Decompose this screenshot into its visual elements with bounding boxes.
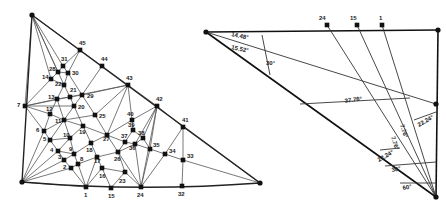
mesh-node-label: 45 <box>79 40 86 46</box>
angle-label: 37.76° <box>344 96 363 104</box>
mesh-node-label: 21 <box>70 87 77 93</box>
top-edge <box>206 30 438 32</box>
mesh-node <box>62 158 67 163</box>
mesh-edges <box>22 15 260 188</box>
mesh-node-label: 5 <box>43 136 47 142</box>
mesh-node-label: 13 <box>48 94 55 100</box>
mesh-edge <box>135 144 141 187</box>
mesh-node <box>62 118 67 123</box>
mesh-node <box>68 95 73 100</box>
mesh-node <box>84 185 89 190</box>
mesh-node <box>61 64 66 69</box>
angle-vertex-node <box>433 101 438 106</box>
mesh-node <box>116 150 121 155</box>
mesh-node <box>131 128 136 133</box>
mesh-node <box>55 97 60 102</box>
mesh-node-label: 20 <box>78 104 85 110</box>
mesh-node <box>42 129 47 134</box>
mesh-node-label: 42 <box>156 96 163 102</box>
mesh-node-label: 17 <box>94 158 101 164</box>
mesh-node <box>48 138 53 143</box>
mesh-node-label: 43 <box>126 75 133 81</box>
node-ray <box>327 25 436 197</box>
mesh-node-label: 15 <box>108 193 115 199</box>
mesh-node <box>109 186 114 191</box>
mesh-node-label: 25 <box>99 113 106 119</box>
mesh-node <box>49 77 54 82</box>
mesh-node-label: 38 <box>138 130 145 136</box>
mesh-node-label: 26 <box>114 156 121 162</box>
mesh-edge <box>143 106 157 138</box>
mesh-node <box>163 152 168 157</box>
mesh-node <box>100 64 105 69</box>
mesh-edge <box>22 131 44 182</box>
mesh-edge <box>25 106 44 131</box>
mesh-node <box>180 184 185 189</box>
mesh-node-label: 1 <box>84 192 88 198</box>
mesh-edge <box>71 168 86 187</box>
mesh-node <box>100 166 105 171</box>
mesh-node <box>76 162 81 167</box>
mesh-node <box>80 93 85 98</box>
mesh-node-label: 3 <box>58 154 62 160</box>
mesh-node <box>139 185 144 190</box>
mesh-node-label: 27 <box>103 136 110 142</box>
angle-top-node-label: 15 <box>350 15 357 21</box>
mesh-node-label: 44 <box>101 56 108 62</box>
mesh-corner-node <box>29 12 34 17</box>
angle-label: 60° <box>402 183 413 191</box>
mesh-edge <box>22 160 64 182</box>
mesh-node-label: 7 <box>17 102 21 108</box>
angle-label: 14.48° <box>231 31 250 41</box>
mesh-node <box>66 71 71 76</box>
mesh-node-label: 8 <box>80 156 84 162</box>
mesh-node <box>89 141 94 146</box>
mesh-edge <box>182 160 183 186</box>
angle-top-node-label: 24 <box>319 15 326 21</box>
angle-top-node-label: 1 <box>379 15 383 21</box>
mesh-node-label: 4 <box>50 147 54 153</box>
mesh-node <box>148 147 153 152</box>
mesh-node <box>81 124 86 129</box>
mesh-edge <box>102 168 125 172</box>
mesh-edge <box>165 154 183 160</box>
mesh-node <box>123 170 128 175</box>
mesh-node <box>56 149 61 154</box>
mesh-node-label: 18 <box>86 147 93 153</box>
mesh-edge <box>57 99 64 120</box>
angle-top-node <box>325 23 330 28</box>
mesh-node-label: 41 <box>182 117 189 123</box>
angle-vertex-node <box>433 194 438 199</box>
mesh-node <box>130 118 135 123</box>
mesh-edge <box>50 138 70 140</box>
mesh-node-label: 32 <box>178 191 185 197</box>
mesh-edge <box>64 120 83 126</box>
mesh-node <box>23 104 28 109</box>
mesh-edge <box>78 164 86 187</box>
mesh-node-label: 6 <box>36 127 40 133</box>
angle-top-node <box>380 23 385 28</box>
mesh-node-label: 39 <box>128 122 135 128</box>
mesh-node-label: 28 <box>49 66 56 72</box>
mesh-node <box>62 83 67 88</box>
mesh-edge <box>95 85 128 115</box>
mesh-edge <box>32 15 63 66</box>
diagram-canvas: 1234567891011121314151617181920212223242… <box>0 0 446 210</box>
mesh-node-label: 14 <box>42 74 49 80</box>
angle-label: 7.76° <box>399 123 409 139</box>
angle-arrow-30 <box>262 35 270 75</box>
mesh-node-label: 33 <box>187 153 194 159</box>
mesh-node-label: 23 <box>119 178 126 184</box>
mesh-node-label: 40 <box>127 111 134 117</box>
angle-top-node <box>355 23 360 28</box>
mesh-node-label: 36 <box>129 145 136 151</box>
triangular-mesh: 1234567891011121314151617181920212223242… <box>17 12 263 199</box>
mesh-edge <box>107 85 128 135</box>
mesh-node <box>181 125 186 130</box>
mesh-node-label: 12 <box>46 106 53 112</box>
angle-label: 30° <box>266 60 276 66</box>
mesh-node-label: 19 <box>79 129 86 135</box>
mesh-node <box>155 104 160 109</box>
mesh-node-label: 34 <box>169 148 176 154</box>
mesh-node <box>181 158 186 163</box>
